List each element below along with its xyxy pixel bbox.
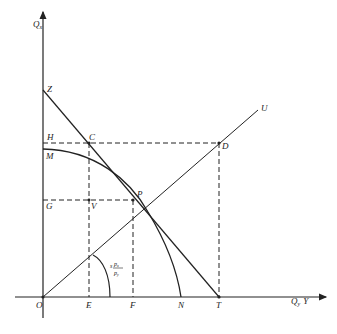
ppf-curve <box>43 149 181 297</box>
x-axis-label: QyY <box>291 296 309 307</box>
svg-text:py: py <box>113 270 119 277</box>
y-axis-label: Qx <box>33 19 43 30</box>
angle-arc <box>93 255 110 297</box>
label-u: U <box>261 103 268 113</box>
label-e: E <box>85 300 92 310</box>
ray-ou <box>43 110 258 297</box>
svg-text:s: s <box>110 263 113 269</box>
label-m: M <box>45 151 54 161</box>
svg-text:px: px <box>113 261 119 268</box>
label-f: F <box>129 300 136 310</box>
price-ratio-label: s px py <box>110 261 123 277</box>
label-t: T <box>216 300 222 310</box>
label-z: Z <box>47 84 53 94</box>
price-line-zt <box>43 90 219 297</box>
diagram-svg: Qx Z H C D M P G V U O E F N T QyY s px … <box>0 0 337 334</box>
diagram-canvas: Qx Z H C D M P G V U O E F N T QyY s px … <box>0 0 337 334</box>
label-n: N <box>177 300 185 310</box>
label-v: V <box>91 201 98 211</box>
label-g: G <box>46 201 53 211</box>
label-h: H <box>46 132 54 142</box>
label-c: C <box>89 132 96 142</box>
label-origin: O <box>36 300 43 310</box>
label-d: D <box>221 141 229 151</box>
label-p: P <box>136 189 143 199</box>
